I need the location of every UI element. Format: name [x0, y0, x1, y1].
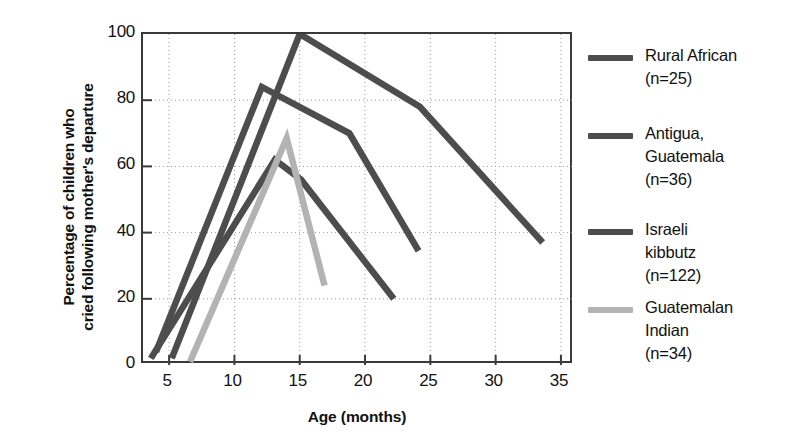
chart-figure: Percentage of children who cried followi… — [0, 0, 797, 441]
y-tick-label: 40 — [89, 222, 135, 239]
y-tick-label: 20 — [89, 288, 135, 305]
y-tick-label: 80 — [89, 89, 135, 106]
x-tick-label: 30 — [474, 372, 514, 389]
legend-swatch-icon — [588, 55, 633, 61]
x-axis-tick-labels: 5101520253035 — [0, 372, 797, 396]
plot-area — [141, 32, 572, 363]
x-tick-label: 25 — [408, 372, 448, 389]
x-tick-label: 15 — [278, 372, 318, 389]
legend-label: Rural African(n=25) — [645, 44, 737, 90]
y-tick-label: 0 — [89, 354, 135, 371]
legend-label-line: (n=25) — [645, 67, 737, 90]
x-tick-label: 35 — [539, 372, 579, 389]
legend-label: Israelikibbutz(n=122) — [645, 218, 701, 287]
x-axis-title: Age (months) — [141, 408, 573, 426]
x-tick-label: 10 — [212, 372, 252, 389]
legend-label: Antigua,Guatemala(n=36) — [645, 122, 724, 191]
y-tick-label: 100 — [89, 23, 135, 40]
legend-label-line: Guatemala — [645, 145, 724, 168]
legend-label-line: Rural African — [645, 44, 737, 67]
chart-lines — [143, 34, 574, 365]
x-tick-label: 5 — [147, 372, 187, 389]
x-tick-label: 20 — [343, 372, 383, 389]
series-line-3 — [151, 160, 394, 359]
legend-label-line: (n=122) — [645, 264, 701, 287]
legend-label-line: Israeli — [645, 218, 701, 241]
legend-label-line: (n=36) — [645, 168, 724, 191]
legend-label-line: Indian — [645, 319, 733, 342]
legend-label-line: Guatemalan — [645, 296, 733, 319]
series-line-2 — [156, 87, 419, 352]
y-tick-label: 60 — [89, 155, 135, 172]
series-line-1 — [172, 34, 543, 358]
y-axis-title-line1: Percentage of children who — [59, 37, 78, 377]
legend-swatch-icon — [588, 229, 633, 235]
legend-label-line: kibbutz — [645, 241, 701, 264]
legend-label-line: (n=34) — [645, 342, 733, 365]
legend-swatch-icon — [588, 133, 633, 139]
legend-label-line: Antigua, — [645, 122, 724, 145]
series-line-4 — [190, 138, 325, 361]
legend-swatch-icon — [588, 307, 633, 313]
legend-label: GuatemalanIndian(n=34) — [645, 296, 733, 365]
